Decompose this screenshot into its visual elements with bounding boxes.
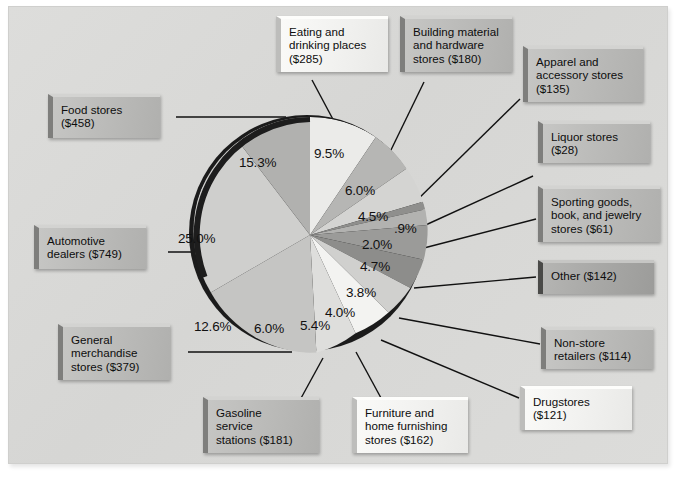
callout-line: stores ($180) [413, 52, 505, 65]
leader-sporting [420, 219, 536, 249]
leader-furniture [356, 352, 381, 398]
slice-label-sporting-goods: 2.0% [362, 237, 392, 252]
callout-drugstores[interactable]: Drugstores ($121) [520, 386, 632, 430]
callout-line: ($285) [289, 52, 381, 65]
callout-other[interactable]: Other ($142) [538, 260, 654, 294]
leader-other [414, 277, 536, 288]
callout-line: Sporting goods, [551, 195, 653, 208]
callout-line: Building material [413, 25, 505, 38]
callout-line: book, and jewelry [551, 208, 653, 221]
callout-building-material-and-hardware-stores[interactable]: Building material and hardware stores ($… [400, 16, 512, 72]
callout-general-merchandise-stores[interactable]: General merchandise stores ($379) [58, 324, 170, 380]
callout-line: and hardware [413, 38, 505, 51]
callout-line: stores ($61) [551, 222, 653, 235]
callout-line: ($458) [61, 116, 153, 129]
callout-line: home furnishing [365, 419, 461, 432]
callout-furniture-and-home-furnishing-stores[interactable]: Furniture and home furnishing stores ($1… [352, 397, 468, 453]
slice-label-eating-drinking: 9.5% [314, 146, 344, 161]
callout-eating-and-drinking-places[interactable]: Eating and drinking places ($285) [276, 16, 388, 72]
callout-line: stores ($379) [71, 360, 163, 373]
slice-label-furniture: 5.4% [300, 318, 330, 333]
callout-automotive-dealers[interactable]: Automotive dealers ($749) [34, 225, 146, 269]
slice-label-building-material: 6.0% [345, 183, 375, 198]
callout-line: Gasoline [216, 406, 312, 419]
figure-canvas: 9.5% 6.0% 4.5% .9% 2.0% 4.7% 3.8% 4.0% 5… [0, 0, 678, 479]
callout-line: merchandise [71, 346, 163, 359]
callout-liquor-stores[interactable]: Liquor stores ($28) [538, 121, 650, 163]
callout-food-stores[interactable]: Food stores ($458) [48, 94, 160, 138]
callout-line: stations ($181) [216, 433, 312, 446]
slice-label-liquor: .9% [394, 221, 417, 236]
callout-line: service [216, 419, 312, 432]
callout-apparel-and-accessory-stores[interactable]: Apparel and accessory stores ($135) [523, 46, 643, 102]
callout-line: dealers ($749) [47, 247, 139, 260]
callout-line: ($121) [533, 408, 625, 421]
callout-line: Furniture and [365, 406, 461, 419]
callout-line: Drugstores [533, 395, 625, 408]
leader-liquor [419, 176, 533, 228]
slice-label-automotive: 25.0% [178, 231, 215, 246]
pie-chart: 9.5% 6.0% 4.5% .9% 2.0% 4.7% 3.8% 4.0% 5… [192, 117, 428, 353]
callout-line: ($28) [551, 143, 643, 156]
callout-line: accessory stores [536, 68, 636, 81]
callout-non-store-retailers[interactable]: Non-store retailers ($114) [541, 327, 653, 369]
leader-gasoline [300, 358, 323, 400]
callout-line: Automotive [47, 234, 139, 247]
slice-label-gasoline: 6.0% [254, 321, 284, 336]
callout-line: drinking places [289, 38, 381, 51]
callout-line: Liquor stores [551, 130, 643, 143]
callout-line: General [71, 333, 163, 346]
slice-label-food-stores: 15.3% [239, 155, 276, 170]
slice-label-general-merchandise: 12.6% [194, 319, 231, 334]
callout-line: Apparel and [536, 55, 636, 68]
callout-line: stores ($162) [365, 433, 461, 446]
callout-line: Other ($142) [551, 269, 647, 282]
callout-gasoline-service-stations[interactable]: Gasoline service stations ($181) [203, 397, 319, 453]
callout-line: Food stores [61, 103, 153, 116]
callout-line: retailers ($114) [554, 349, 646, 362]
slice-label-non-store: 3.8% [346, 285, 376, 300]
callout-line: Eating and [289, 25, 381, 38]
callout-sporting-goods-book-and-jewelry-stores[interactable]: Sporting goods, book, and jewelry stores… [538, 186, 660, 242]
callout-line: ($135) [536, 82, 636, 95]
callout-line: Non-store [554, 336, 646, 349]
slice-label-other: 4.7% [360, 259, 390, 274]
slice-label-apparel: 4.5% [358, 209, 388, 224]
